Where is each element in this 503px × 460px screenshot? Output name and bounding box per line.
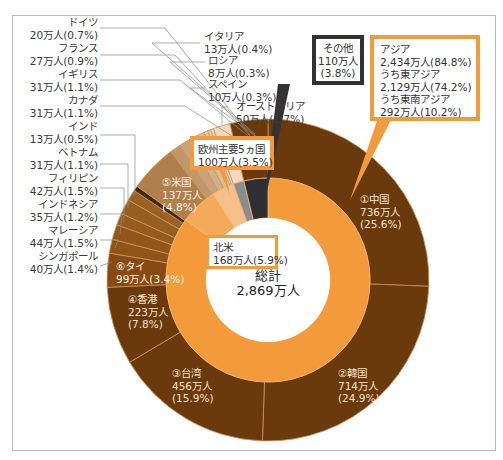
label-germany: ドイツ20万人(0.7%) xyxy=(20,16,98,41)
slice-label-taiwan: ③台湾456万人(15.9%) xyxy=(172,367,214,405)
label-italy: イタリア13万人(0.4%) xyxy=(204,30,272,55)
slice-label-korea: ②韓国714万人(24.9%) xyxy=(338,367,380,405)
callout-asia: アジア 2,434万人(84.8%) うち東アジア 2,129万人(74.2%)… xyxy=(370,35,480,121)
slice-label-usa: ⑤米国137万人(4.8%) xyxy=(162,176,202,214)
callout-north-america: 北米 168万人(5.9%) xyxy=(206,235,278,269)
label-russia: ロシア8万人(0.3%) xyxy=(208,54,270,79)
slice-label-china: ①中国736万人(25.6%) xyxy=(360,193,402,231)
label-uk: イギリス31万人(1.1%) xyxy=(20,68,98,93)
label-malaysia: マレーシア44万人(1.5%) xyxy=(20,224,98,249)
total-label: 総計 2,869万人 xyxy=(218,268,318,298)
label-india: インド13万人(0.5%) xyxy=(20,120,98,145)
label-vietnam: ベトナム31万人(1.1%) xyxy=(20,146,98,171)
label-france: フランス27万人(0.9%) xyxy=(20,42,98,67)
callout-other: その他 110万人 (3.8%) xyxy=(312,35,364,85)
label-canada: カナダ31万人(1.1%) xyxy=(20,94,98,119)
label-singapore: シンガポール40万人(1.4%) xyxy=(20,250,98,275)
label-australia: オーストラリア50万人(1.7%) xyxy=(236,100,305,125)
slice-label-thailand: ⑥タイ99万人(3.4%) xyxy=(116,260,184,285)
label-indonesia: インドネシア35万人(1.2%) xyxy=(20,198,98,223)
label-philippines: フィリピン42万人(1.5%) xyxy=(20,172,98,197)
callout-europe: 欧州主要5ヵ国 100万人(3.5%) xyxy=(190,136,274,170)
slice-label-hongkong: ④香港223万人(7.8%) xyxy=(128,293,168,331)
